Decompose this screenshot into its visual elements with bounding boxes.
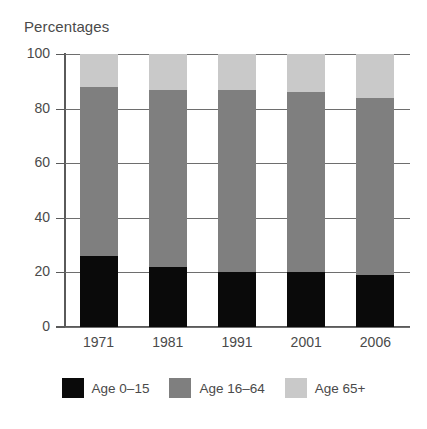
- bar-group-1991[interactable]: [218, 54, 256, 327]
- legend-item-2[interactable]: Age 16–64: [169, 378, 264, 398]
- bar-segment-2006-age-16-64[interactable]: [356, 98, 394, 275]
- bar-segment-2006-age-65[interactable]: [356, 54, 394, 98]
- y-tick-mark-100: [56, 54, 65, 55]
- legend-item-3[interactable]: Age 65+: [285, 378, 366, 398]
- y-tick-label-100: 100: [27, 45, 50, 61]
- legend-label-1: Age 0–15: [92, 381, 150, 396]
- stacked-bar-chart: Percentages 020406080100 197119811991200…: [0, 0, 427, 429]
- y-tick-label-80: 80: [34, 100, 50, 116]
- chart-legend: Age 0–15Age 16–64Age 65+: [0, 378, 427, 398]
- y-tick-mark-20: [56, 272, 65, 273]
- bar-segment-2001-age-65[interactable]: [287, 54, 325, 92]
- gridline-0: [64, 327, 410, 328]
- y-tick-label-60: 60: [34, 154, 50, 170]
- y-tick-label-0: 0: [42, 318, 50, 334]
- x-tick-label-2001: 2001: [276, 334, 336, 350]
- y-tick-mark-0: [56, 327, 65, 328]
- y-tick-label-40: 40: [34, 209, 50, 225]
- x-tick-label-2006: 2006: [345, 334, 405, 350]
- x-tick-label-1991: 1991: [207, 334, 267, 350]
- plot-area: [64, 54, 410, 327]
- y-tick-mark-60: [56, 163, 65, 164]
- x-tick-label-1981: 1981: [138, 334, 198, 350]
- bar-segment-1991-age-65[interactable]: [218, 54, 256, 89]
- bar-group-2001[interactable]: [287, 54, 325, 327]
- legend-swatch-age-16-64: [169, 378, 191, 398]
- bar-group-2006[interactable]: [356, 54, 394, 327]
- legend-swatch-age-65-plus: [285, 378, 307, 398]
- bar-segment-1981-age-0-15[interactable]: [149, 267, 187, 327]
- x-tick-label-1971: 1971: [69, 334, 129, 350]
- y-tick-mark-80: [56, 109, 65, 110]
- bar-segment-2006-age-0-15[interactable]: [356, 275, 394, 327]
- bar-segment-1971-age-65[interactable]: [80, 54, 118, 87]
- bar-segment-1971-age-16-64[interactable]: [80, 87, 118, 256]
- bar-segment-1991-age-0-15[interactable]: [218, 272, 256, 327]
- y-axis-labels: 020406080100: [0, 0, 50, 429]
- legend-label-2: Age 16–64: [199, 381, 264, 396]
- bar-group-1981[interactable]: [149, 54, 187, 327]
- legend-item-1[interactable]: Age 0–15: [62, 378, 150, 398]
- bar-segment-1981-age-16-64[interactable]: [149, 90, 187, 267]
- legend-swatch-age-0-15: [62, 378, 84, 398]
- bar-segment-1991-age-16-64[interactable]: [218, 90, 256, 273]
- y-tick-label-20: 20: [34, 263, 50, 279]
- bar-group-1971[interactable]: [80, 54, 118, 327]
- bar-segment-2001-age-16-64[interactable]: [287, 92, 325, 272]
- legend-label-3: Age 65+: [315, 381, 366, 396]
- bar-segment-1981-age-65[interactable]: [149, 54, 187, 89]
- y-tick-mark-40: [56, 218, 65, 219]
- bar-segment-1971-age-0-15[interactable]: [80, 256, 118, 327]
- bar-segment-2001-age-0-15[interactable]: [287, 272, 325, 327]
